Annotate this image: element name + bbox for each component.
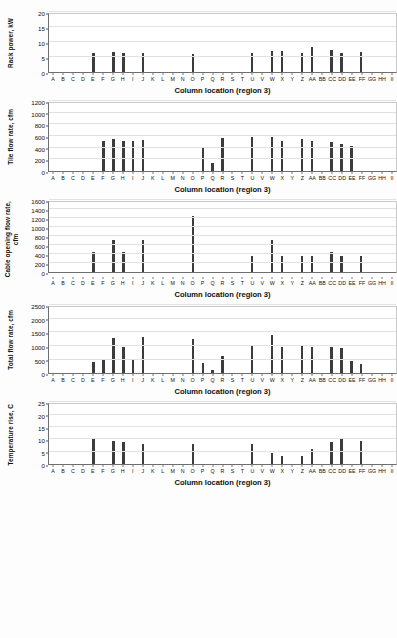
x-tick-label: S: [231, 175, 235, 181]
x-tick-label: C: [71, 377, 75, 383]
x-tick-mark: [252, 172, 253, 174]
figure-page: Rack power, kW 05101520 ABCDEFGHIJKLMNOP…: [0, 0, 397, 638]
x-tick-mark: [152, 172, 153, 174]
x-tick-mark: [232, 465, 233, 467]
x-tick-mark: [102, 374, 103, 376]
x-tick-label: M: [170, 377, 174, 383]
x-tick-mark: [262, 465, 263, 467]
bar: [311, 256, 313, 272]
x-tick-label: Q: [210, 175, 214, 181]
x-tick-label: C: [71, 280, 75, 286]
x-tick-label: K: [151, 468, 155, 474]
x-tick-mark: [272, 73, 273, 75]
x-tick-label: D: [81, 468, 85, 474]
gridline: [49, 147, 396, 148]
x-tick-mark: [212, 277, 213, 279]
x-tick-label: A: [51, 377, 55, 383]
x-tick-label: HH: [378, 377, 386, 383]
x-tick-label: B: [61, 175, 65, 181]
bar: [112, 441, 114, 464]
x-tick-mark: [292, 73, 293, 75]
y-tick-label: 0: [42, 270, 45, 277]
x-tick-label: Y: [291, 377, 295, 383]
x-tick-label: V: [261, 280, 265, 286]
x-tick-mark: [362, 277, 363, 279]
x-tick-label: K: [151, 377, 155, 383]
x-tick-mark: [372, 465, 373, 467]
x-tick-mark: [282, 465, 283, 467]
x-tick-label: S: [231, 76, 235, 82]
x-tick-mark: [322, 172, 323, 174]
x-tick-mark: [332, 465, 333, 467]
x-tick-mark: [312, 277, 313, 279]
x-tick-mark: [182, 172, 183, 174]
x-tick-label: II: [391, 175, 394, 181]
x-tick-mark: [292, 465, 293, 467]
x-tick-label: EE: [349, 377, 356, 383]
x-axis-title-cable-opening-flow-rate: Column location (region 3): [48, 290, 397, 299]
gridline: [49, 451, 396, 452]
gridline: [49, 235, 396, 236]
y-axis-title-temperature-rise: Temperature rise, C: [0, 403, 22, 465]
x-tick-label: I: [132, 76, 133, 82]
x-tick-label: J: [141, 468, 144, 474]
y-tick-label: 1400: [31, 207, 45, 214]
x-tick-mark: [362, 172, 363, 174]
x-tick-mark: [82, 172, 83, 174]
x-tick-mark: [332, 374, 333, 376]
x-tick-label: DD: [338, 280, 346, 286]
x-tick-mark: [242, 73, 243, 75]
bar: [122, 347, 124, 373]
y-tick-label: 1000: [31, 110, 45, 117]
x-axis-rack-power: ABCDEFGHIJKLMNOPQRSTUVWXYZAABBCCDDEEFFGG…: [48, 73, 397, 85]
x-tick-label: FF: [359, 175, 365, 181]
x-tick-label: A: [51, 175, 55, 181]
x-tick-mark: [122, 73, 123, 75]
bar: [340, 348, 342, 373]
x-tick-mark: [382, 172, 383, 174]
x-tick-mark: [242, 277, 243, 279]
bar: [142, 140, 144, 171]
x-tick-mark: [352, 172, 353, 174]
x-axis-title-temperature-rise: Column location (region 3): [48, 478, 397, 487]
x-tick-mark: [112, 374, 113, 376]
x-tick-mark: [232, 374, 233, 376]
x-tick-label: C: [71, 76, 75, 82]
x-tick-mark: [92, 374, 93, 376]
x-tick-mark: [382, 277, 383, 279]
x-tick-mark: [372, 73, 373, 75]
x-tick-mark: [172, 465, 173, 467]
x-tick-mark: [162, 465, 163, 467]
bar: [311, 47, 313, 72]
x-tick-mark: [252, 73, 253, 75]
x-tick-mark: [52, 374, 53, 376]
x-tick-label: L: [161, 175, 164, 181]
x-tick-mark: [382, 374, 383, 376]
y-axis-title-text: Cable opening flow rate, cfm: [4, 201, 19, 277]
x-tick-mark: [222, 73, 223, 75]
x-tick-label: M: [170, 175, 174, 181]
chart-block-tile-flow-rate: Tile flow rate, cfm 02004006008001000120…: [0, 102, 397, 194]
y-tick-label: 800: [35, 234, 45, 241]
x-tick-label: E: [91, 377, 95, 383]
x-tick-label: O: [191, 175, 195, 181]
x-tick-mark: [292, 172, 293, 174]
x-tick-label: F: [101, 175, 104, 181]
gridline: [49, 158, 396, 159]
x-tick-label: HH: [378, 468, 386, 474]
x-tick-label: H: [121, 175, 125, 181]
y-axis-title-tile-flow-rate: Tile flow rate, cfm: [0, 102, 22, 172]
x-tick-mark: [62, 374, 63, 376]
x-tick-label: H: [121, 280, 125, 286]
x-tick-mark: [122, 374, 123, 376]
chart-panel-tile-flow-rate: Tile flow rate, cfm 02004006008001000120…: [0, 102, 397, 172]
gridline: [49, 100, 396, 101]
y-tick-label: 800: [35, 122, 45, 129]
x-axis-title-tile-flow-rate: Column location (region 3): [48, 185, 397, 194]
x-tick-mark: [202, 73, 203, 75]
x-tick-mark: [302, 172, 303, 174]
x-tick-label: Z: [301, 76, 304, 82]
x-tick-label: T: [241, 468, 244, 474]
x-tick-label: L: [161, 76, 164, 82]
x-tick-mark: [222, 374, 223, 376]
